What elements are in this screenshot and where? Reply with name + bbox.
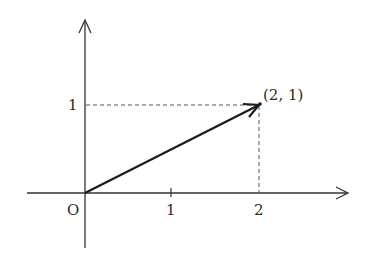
- point-dot: [258, 102, 262, 106]
- x-tick-label-1: 1: [166, 201, 176, 219]
- point-label: (2, 1): [263, 86, 303, 104]
- origin-label: O: [67, 201, 79, 219]
- y-axis: [79, 20, 91, 248]
- y-tick-label-1: 1: [68, 96, 78, 114]
- vector-arrowhead-icon: [243, 104, 259, 117]
- vector: [85, 102, 262, 193]
- x-tick-label-2: 2: [254, 201, 264, 219]
- x-axis: [27, 187, 348, 199]
- coordinate-diagram: O 1 2 1 (2, 1): [0, 0, 369, 263]
